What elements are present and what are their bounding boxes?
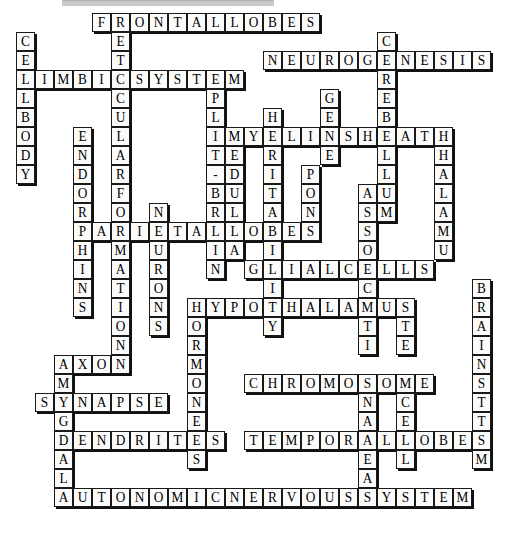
- crossword-cell-r9-c18[interactable]: A: [358, 184, 377, 203]
- crossword-cell-r7-c13[interactable]: R: [263, 146, 282, 165]
- crossword-cell-r5-c0[interactable]: B: [16, 108, 35, 127]
- crossword-cell-r6-c16[interactable]: N: [320, 127, 339, 146]
- crossword-cell-r2-c14[interactable]: E: [282, 51, 301, 70]
- crossword-cell-r19-c18[interactable]: S: [358, 374, 377, 393]
- crossword-cell-r23-c9[interactable]: S: [187, 450, 206, 469]
- crossword-cell-r2-c13[interactable]: N: [263, 51, 282, 70]
- crossword-cell-r1-c19[interactable]: C: [377, 32, 396, 51]
- crossword-cell-r15-c19[interactable]: U: [377, 298, 396, 317]
- crossword-cell-r10-c22[interactable]: A: [434, 203, 453, 222]
- crossword-cell-r22-c20[interactable]: L: [396, 431, 415, 450]
- crossword-cell-r22-c2[interactable]: D: [54, 431, 73, 450]
- crossword-cell-r7-c16[interactable]: E: [320, 146, 339, 165]
- crossword-cell-r19-c21[interactable]: E: [415, 374, 434, 393]
- crossword-cell-r11-c9[interactable]: A: [187, 222, 206, 241]
- crossword-cell-r11-c10[interactable]: L: [206, 222, 225, 241]
- crossword-cell-r9-c3[interactable]: O: [73, 184, 92, 203]
- crossword-cell-r16-c24[interactable]: A: [472, 317, 491, 336]
- crossword-cell-r13-c13[interactable]: L: [263, 260, 282, 279]
- crossword-cell-r2-c16[interactable]: R: [320, 51, 339, 70]
- crossword-cell-r15-c18[interactable]: M: [358, 298, 377, 317]
- crossword-cell-r16-c18[interactable]: T: [358, 317, 377, 336]
- crossword-cell-r9-c10[interactable]: B: [206, 184, 225, 203]
- crossword-cell-r17-c9[interactable]: R: [187, 336, 206, 355]
- crossword-cell-r15-c7[interactable]: N: [149, 298, 168, 317]
- crossword-cell-r22-c22[interactable]: B: [434, 431, 453, 450]
- crossword-cell-r12-c7[interactable]: U: [149, 241, 168, 260]
- crossword-cell-r20-c3[interactable]: N: [73, 393, 92, 412]
- crossword-cell-r17-c20[interactable]: E: [396, 336, 415, 355]
- crossword-cell-r8-c5[interactable]: R: [111, 165, 130, 184]
- crossword-cell-r5-c13[interactable]: H: [263, 108, 282, 127]
- crossword-cell-r18-c24[interactable]: N: [472, 355, 491, 374]
- crossword-cell-r6-c12[interactable]: Y: [244, 127, 263, 146]
- crossword-cell-r0-c10[interactable]: L: [206, 13, 225, 32]
- crossword-cell-r20-c20[interactable]: C: [396, 393, 415, 412]
- crossword-cell-r17-c18[interactable]: I: [358, 336, 377, 355]
- crossword-cell-r15-c16[interactable]: L: [320, 298, 339, 317]
- crossword-cell-r20-c1[interactable]: S: [35, 393, 54, 412]
- crossword-cell-r0-c5[interactable]: R: [111, 13, 130, 32]
- crossword-cell-r22-c12[interactable]: T: [244, 431, 263, 450]
- crossword-cell-r0-c7[interactable]: N: [149, 13, 168, 32]
- crossword-cell-r3-c19[interactable]: R: [377, 70, 396, 89]
- crossword-cell-r5-c10[interactable]: L: [206, 108, 225, 127]
- crossword-cell-r8-c22[interactable]: A: [434, 165, 453, 184]
- crossword-cell-r15-c3[interactable]: S: [73, 298, 92, 317]
- crossword-cell-r10-c10[interactable]: R: [206, 203, 225, 222]
- crossword-cell-r22-c15[interactable]: P: [301, 431, 320, 450]
- crossword-cell-r20-c18[interactable]: N: [358, 393, 377, 412]
- crossword-cell-r6-c20[interactable]: A: [396, 127, 415, 146]
- crossword-cell-r23-c18[interactable]: E: [358, 450, 377, 469]
- crossword-cell-r3-c0[interactable]: L: [16, 70, 35, 89]
- crossword-cell-r24-c18[interactable]: A: [358, 469, 377, 488]
- crossword-cell-r4-c19[interactable]: E: [377, 89, 396, 108]
- crossword-cell-r6-c0[interactable]: O: [16, 127, 35, 146]
- crossword-cell-r15-c9[interactable]: H: [187, 298, 206, 317]
- crossword-cell-r3-c1[interactable]: I: [35, 70, 54, 89]
- crossword-cell-r22-c18[interactable]: A: [358, 431, 377, 450]
- crossword-cell-r11-c6[interactable]: I: [130, 222, 149, 241]
- crossword-cell-r15-c14[interactable]: H: [282, 298, 301, 317]
- crossword-cell-r12-c3[interactable]: H: [73, 241, 92, 260]
- crossword-cell-r6-c18[interactable]: H: [358, 127, 377, 146]
- crossword-cell-r10-c3[interactable]: R: [73, 203, 92, 222]
- crossword-cell-r2-c23[interactable]: I: [453, 51, 472, 70]
- crossword-cell-r6-c14[interactable]: L: [282, 127, 301, 146]
- crossword-cell-r16-c9[interactable]: O: [187, 317, 206, 336]
- crossword-cell-r2-c22[interactable]: S: [434, 51, 453, 70]
- crossword-cell-r13-c5[interactable]: A: [111, 260, 130, 279]
- crossword-cell-r22-c24[interactable]: S: [472, 431, 491, 450]
- crossword-cell-r25-c20[interactable]: S: [396, 488, 415, 507]
- crossword-cell-r22-c21[interactable]: O: [415, 431, 434, 450]
- crossword-cell-r25-c22[interactable]: E: [434, 488, 453, 507]
- crossword-cell-r13-c21[interactable]: S: [415, 260, 434, 279]
- crossword-cell-r15-c15[interactable]: A: [301, 298, 320, 317]
- crossword-cell-r22-c6[interactable]: R: [130, 431, 149, 450]
- crossword-cell-r22-c19[interactable]: L: [377, 431, 396, 450]
- crossword-cell-r25-c10[interactable]: C: [206, 488, 225, 507]
- crossword-cell-r19-c12[interactable]: C: [244, 374, 263, 393]
- crossword-cell-r21-c24[interactable]: T: [472, 412, 491, 431]
- crossword-cell-r10-c18[interactable]: S: [358, 203, 377, 222]
- crossword-cell-r10-c15[interactable]: N: [301, 203, 320, 222]
- crossword-cell-r9-c5[interactable]: F: [111, 184, 130, 203]
- crossword-cell-r11-c13[interactable]: B: [263, 222, 282, 241]
- crossword-cell-r22-c3[interactable]: E: [73, 431, 92, 450]
- crossword-cell-r7-c10[interactable]: T: [206, 146, 225, 165]
- crossword-cell-r8-c0[interactable]: Y: [16, 165, 35, 184]
- crossword-cell-r16-c5[interactable]: O: [111, 317, 130, 336]
- crossword-cell-r11-c4[interactable]: A: [92, 222, 111, 241]
- crossword-cell-r7-c11[interactable]: E: [225, 146, 244, 165]
- crossword-cell-r0-c14[interactable]: E: [282, 13, 301, 32]
- crossword-cell-r14-c3[interactable]: N: [73, 279, 92, 298]
- crossword-cell-r25-c14[interactable]: V: [282, 488, 301, 507]
- crossword-cell-r19-c24[interactable]: S: [472, 374, 491, 393]
- crossword-cell-r11-c18[interactable]: S: [358, 222, 377, 241]
- crossword-cell-r10-c19[interactable]: M: [377, 203, 396, 222]
- crossword-cell-r3-c10[interactable]: E: [206, 70, 225, 89]
- crossword-cell-r22-c9[interactable]: E: [187, 431, 206, 450]
- crossword-cell-r14-c7[interactable]: O: [149, 279, 168, 298]
- crossword-cell-r19-c19[interactable]: O: [377, 374, 396, 393]
- crossword-cell-r18-c3[interactable]: X: [73, 355, 92, 374]
